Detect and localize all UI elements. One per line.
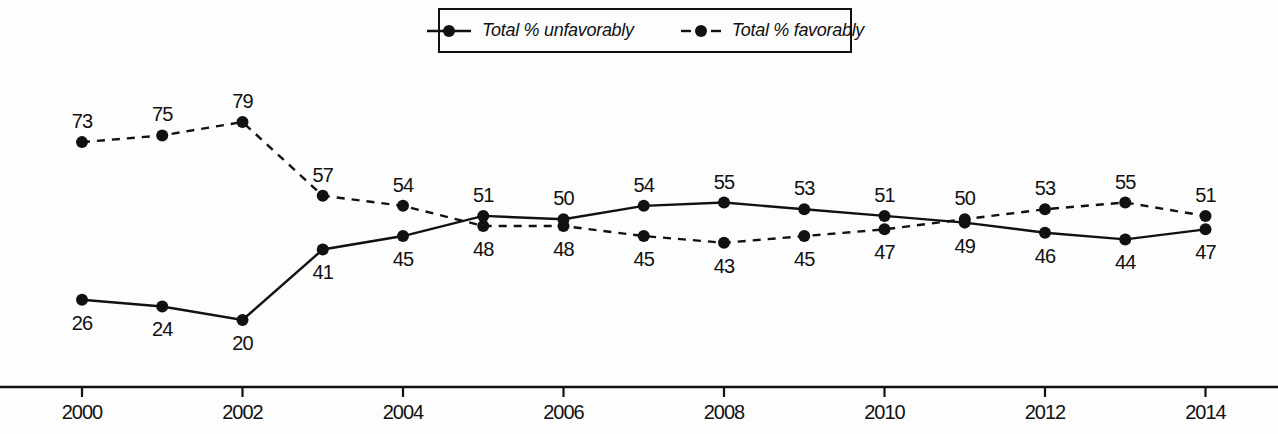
data-point: [558, 220, 570, 232]
data-point: [1119, 197, 1131, 209]
data-label: 47: [1195, 241, 1216, 263]
data-label: 54: [393, 174, 414, 196]
data-label: 43: [714, 255, 735, 277]
data-label: 53: [794, 177, 815, 199]
data-label: 51: [1195, 184, 1216, 206]
data-point: [798, 230, 810, 242]
data-point: [959, 213, 971, 225]
data-label: 53: [1035, 177, 1056, 199]
data-point: [798, 203, 810, 215]
data-point: [638, 230, 650, 242]
data-label: 44: [1115, 251, 1136, 273]
data-label: 73: [72, 110, 93, 132]
data-label: 55: [1115, 171, 1136, 193]
data-label: 49: [954, 235, 975, 257]
x-tick-label: 2008: [704, 401, 745, 423]
data-label: 47: [874, 241, 895, 263]
data-point: [1200, 210, 1212, 222]
x-tick-label: 2012: [1025, 401, 1066, 423]
data-label: 55: [714, 171, 735, 193]
plot-area: 2000200220042006200820102012201426242041…: [0, 0, 1278, 434]
data-point: [1039, 203, 1051, 215]
data-point: [397, 200, 409, 212]
x-tick-label: 2006: [543, 401, 584, 423]
data-point: [397, 230, 409, 242]
x-tick-label: 2000: [62, 401, 103, 423]
data-point: [1039, 227, 1051, 239]
data-label: 26: [72, 312, 93, 334]
data-label: 24: [152, 318, 173, 340]
data-label: 51: [874, 184, 895, 206]
data-point: [317, 243, 329, 255]
x-tick-label: 2004: [383, 401, 424, 423]
x-tick-label: 2014: [1185, 401, 1226, 423]
data-label: 45: [633, 248, 654, 270]
chart-figure: Total % unfavorably Total % favorably 20…: [0, 0, 1278, 434]
data-point: [156, 129, 168, 141]
data-label: 20: [232, 332, 253, 354]
x-tick-label: 2002: [222, 401, 263, 423]
data-point: [1119, 233, 1131, 245]
data-point: [237, 116, 249, 128]
data-label: 79: [232, 90, 253, 112]
data-label: 50: [553, 187, 574, 209]
data-point: [718, 197, 730, 209]
data-point: [156, 300, 168, 312]
data-point: [317, 190, 329, 202]
data-label: 46: [1035, 245, 1056, 267]
data-point: [76, 136, 88, 148]
data-label: 75: [152, 103, 173, 125]
data-label: 54: [633, 174, 654, 196]
data-point: [879, 210, 891, 222]
data-label: 51: [473, 184, 494, 206]
data-point: [237, 314, 249, 326]
x-tick-label: 2010: [864, 401, 905, 423]
data-label: 45: [393, 248, 414, 270]
data-label: 48: [553, 238, 574, 260]
data-point: [1200, 223, 1212, 235]
data-point: [638, 200, 650, 212]
data-point: [76, 294, 88, 306]
data-label: 57: [312, 164, 333, 186]
data-label: 41: [312, 261, 333, 283]
data-label: 48: [473, 238, 494, 260]
data-point: [477, 220, 489, 232]
data-label: 45: [794, 248, 815, 270]
data-point: [718, 237, 730, 249]
data-point: [879, 223, 891, 235]
data-label: 50: [954, 187, 975, 209]
